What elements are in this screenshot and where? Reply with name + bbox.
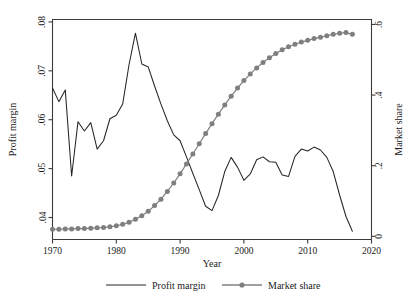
series-marker-market-share	[299, 40, 304, 45]
series-marker-market-share	[229, 94, 234, 99]
y-left-ticklabel: .06	[38, 114, 48, 126]
series-marker-market-share	[273, 51, 278, 56]
series-marker-market-share	[76, 226, 81, 231]
series-marker-market-share	[88, 226, 93, 231]
series-marker-market-share	[171, 181, 176, 186]
series-layer	[50, 30, 355, 232]
y-axis-right: 0.2.4.6	[372, 21, 385, 239]
series-marker-market-share	[197, 141, 202, 146]
series-marker-market-share	[331, 32, 336, 37]
series-marker-market-share	[146, 209, 151, 214]
series-marker-market-share	[107, 224, 112, 229]
y-axis-right-title: Market share	[393, 103, 404, 156]
series-marker-market-share	[152, 203, 157, 208]
y-right-ticklabel: .6	[375, 21, 385, 28]
y-right-ticklabel: .4	[375, 91, 385, 98]
y-right-ticklabel: .2	[375, 162, 385, 169]
series-marker-market-share	[261, 60, 266, 65]
series-marker-market-share	[133, 217, 138, 222]
series-marker-market-share	[324, 33, 329, 38]
series-marker-market-share	[114, 223, 119, 228]
y-left-ticklabel: .07	[38, 65, 48, 77]
series-marker-market-share	[158, 197, 163, 202]
series-marker-market-share	[235, 86, 240, 91]
series-marker-market-share	[63, 226, 68, 231]
series-marker-market-share	[222, 102, 227, 107]
x-ticklabel: 1970	[43, 246, 62, 256]
legend-label-market-share: Market share	[268, 280, 321, 291]
y-right-ticklabel: 0	[375, 234, 385, 239]
series-marker-market-share	[241, 78, 246, 83]
x-ticklabel: 2000	[234, 246, 253, 256]
plot-border	[53, 20, 372, 240]
legend-marker-market-share	[239, 282, 244, 287]
series-marker-market-share	[190, 152, 195, 157]
series-marker-market-share	[165, 189, 170, 194]
series-marker-market-share	[248, 71, 253, 76]
series-marker-market-share	[69, 226, 74, 231]
series-marker-market-share	[305, 38, 310, 43]
y-axis-left: .04.05.06.07.08	[38, 16, 53, 224]
x-ticklabel: 2010	[298, 246, 317, 256]
series-marker-market-share	[286, 44, 291, 49]
x-ticklabel: 1990	[171, 246, 190, 256]
series-marker-market-share	[127, 220, 132, 225]
series-marker-market-share	[254, 65, 259, 70]
chart-figure: .04.05.06.07.08 0.2.4.6 1970198019902000…	[0, 0, 415, 301]
series-line-market-share	[53, 33, 353, 230]
series-marker-market-share	[267, 55, 272, 60]
series-marker-market-share	[50, 227, 55, 232]
series-marker-market-share	[82, 226, 87, 231]
dual-axis-line-chart: .04.05.06.07.08 0.2.4.6 1970198019902000…	[0, 0, 415, 301]
y-left-ticklabel: .05	[38, 162, 48, 174]
series-marker-market-share	[120, 222, 125, 227]
series-marker-market-share	[318, 35, 323, 40]
series-marker-market-share	[139, 213, 144, 218]
series-marker-market-share	[184, 161, 189, 166]
x-axis: 197019801990200020102020	[43, 240, 381, 256]
x-ticklabel: 2020	[362, 246, 381, 256]
series-marker-market-share	[312, 36, 317, 41]
x-ticklabel: 1980	[107, 246, 126, 256]
series-marker-market-share	[350, 32, 355, 37]
series-marker-market-share	[280, 47, 285, 52]
chart-legend: Profit marginMarket share	[106, 280, 321, 291]
series-marker-market-share	[216, 112, 221, 117]
y-left-ticklabel: .08	[38, 16, 48, 28]
legend-label-profit-margin: Profit margin	[152, 280, 205, 291]
series-marker-market-share	[56, 227, 61, 232]
series-marker-market-share	[292, 42, 297, 47]
series-marker-market-share	[101, 225, 106, 230]
series-marker-market-share	[203, 131, 208, 136]
y-axis-left-title: Profit margin	[7, 103, 18, 156]
series-marker-market-share	[210, 121, 215, 126]
plot-frame	[53, 20, 372, 240]
series-line-profit-margin	[53, 33, 353, 231]
axis-titles: Profit marginMarket shareYear	[7, 103, 404, 269]
series-marker-market-share	[178, 171, 183, 176]
series-marker-market-share	[337, 31, 342, 36]
y-left-ticklabel: .04	[38, 211, 48, 223]
x-axis-title: Year	[203, 258, 222, 269]
series-marker-market-share	[95, 225, 100, 230]
series-marker-market-share	[343, 30, 348, 35]
